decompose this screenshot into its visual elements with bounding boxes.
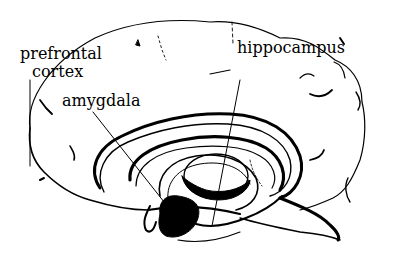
amygdala-shape	[159, 196, 199, 237]
label-prefrontal-line1: prefrontal	[20, 45, 102, 63]
brain-diagram: prefrontal cortex amygdala hippocampus	[0, 0, 404, 265]
label-prefrontal-cortex: prefrontal cortex	[20, 45, 102, 81]
hippocampus-pointer	[212, 80, 240, 226]
ventricle	[182, 176, 250, 200]
hippocampus-shape	[196, 196, 282, 226]
label-amygdala: amygdala	[62, 92, 140, 110]
label-prefrontal-line2: cortex	[20, 63, 102, 81]
label-hippocampus: hippocampus	[237, 39, 345, 57]
